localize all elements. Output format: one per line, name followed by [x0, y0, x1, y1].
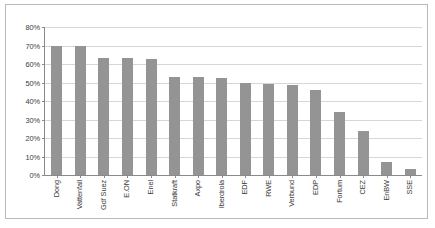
- bar-slot: [351, 27, 375, 175]
- x-tick-label: EDP: [310, 180, 319, 195]
- bar-slot: [186, 27, 210, 175]
- y-tick-label: 50%: [26, 78, 41, 87]
- bar: [146, 59, 157, 175]
- x-tick-label: Dong: [51, 180, 60, 197]
- bar-slot: [139, 27, 163, 175]
- x-tick-mark: [104, 175, 105, 178]
- bar: [122, 58, 133, 175]
- y-tick-mark: [42, 175, 45, 176]
- bar-slot: [45, 27, 69, 175]
- x-label-slot: Enel: [138, 179, 162, 223]
- x-tick-label: Iberdrola: [216, 180, 225, 208]
- x-tick-mark: [316, 175, 317, 178]
- bar: [51, 46, 62, 176]
- bar: [310, 90, 321, 175]
- x-tick-label: Enel: [146, 180, 155, 194]
- x-label-slot: E.ON: [115, 179, 139, 223]
- y-tick-label: 30%: [26, 115, 41, 124]
- bar-slot: [257, 27, 281, 175]
- x-label-slot: EDP: [303, 179, 327, 223]
- y-tick-label: 0%: [30, 171, 40, 180]
- x-tick-mark: [363, 175, 364, 178]
- bar-series: [45, 27, 422, 175]
- x-tick-mark: [175, 175, 176, 178]
- bar-slot: [163, 27, 187, 175]
- x-tick-label: Fortum: [334, 180, 343, 203]
- x-tick-label: CEZ: [358, 180, 367, 194]
- bar-slot: [304, 27, 328, 175]
- x-tick-mark: [292, 175, 293, 178]
- bar: [216, 78, 227, 175]
- x-tick-mark: [80, 175, 81, 178]
- bar-slot: [210, 27, 234, 175]
- bar-slot: [375, 27, 399, 175]
- x-label-slot: Gdf Suez: [91, 179, 115, 223]
- x-label-slot: Vattenfall: [68, 179, 92, 223]
- x-tick-mark: [151, 175, 152, 178]
- y-tick-label: 70%: [26, 41, 41, 50]
- x-tick-label: EnBW: [381, 180, 390, 201]
- x-tick-mark: [340, 175, 341, 178]
- bar: [263, 84, 274, 175]
- bar-slot: [69, 27, 93, 175]
- bar-slot: [116, 27, 140, 175]
- x-tick-label: EDF: [240, 180, 249, 194]
- x-tick-label: Gdf Suez: [98, 180, 107, 210]
- chart-frame: 80%70%60%50%40%30%20%10%0% DongVattenfal…: [5, 4, 428, 219]
- x-tick-mark: [198, 175, 199, 178]
- x-label-slot: SSE: [397, 179, 421, 223]
- x-tick-mark: [387, 175, 388, 178]
- bar: [98, 58, 109, 175]
- y-tick-label: 60%: [26, 60, 41, 69]
- x-tick-label: Verbund: [287, 180, 296, 207]
- x-tick-label: SSE: [405, 180, 414, 195]
- x-label-slot: RWE: [256, 179, 280, 223]
- bar-slot: [328, 27, 352, 175]
- x-axis-category-labels: DongVattenfallGdf SuezE.ONEnelStatkraftA…: [44, 179, 421, 223]
- plot-area: 80%70%60%50%40%30%20%10%0%: [44, 27, 422, 176]
- bar-slot: [92, 27, 116, 175]
- x-label-slot: Axpo: [185, 179, 209, 223]
- x-label-slot: Dong: [44, 179, 68, 223]
- x-label-slot: Statkraft: [162, 179, 186, 223]
- x-tick-mark: [222, 175, 223, 178]
- x-tick-label: RWE: [263, 180, 272, 197]
- bar-slot: [398, 27, 422, 175]
- x-tick-mark: [57, 175, 58, 178]
- bar: [358, 131, 369, 175]
- bar: [287, 85, 298, 175]
- y-tick-label: 80%: [26, 23, 41, 32]
- x-label-slot: EDF: [233, 179, 257, 223]
- x-label-slot: Verbund: [280, 179, 304, 223]
- bar-slot: [281, 27, 305, 175]
- bar-slot: [234, 27, 258, 175]
- x-label-slot: EnBW: [374, 179, 398, 223]
- y-tick-label: 40%: [26, 97, 41, 106]
- bar: [75, 46, 86, 176]
- bar: [334, 112, 345, 175]
- y-tick-label: 20%: [26, 134, 41, 143]
- x-tick-mark: [127, 175, 128, 178]
- x-tick-mark: [269, 175, 270, 178]
- x-label-slot: CEZ: [350, 179, 374, 223]
- x-label-slot: Iberdrola: [209, 179, 233, 223]
- x-tick-label: Vattenfall: [75, 180, 84, 209]
- x-tick-label: Axpo: [193, 180, 202, 196]
- bar: [381, 162, 392, 175]
- x-tick-mark: [245, 175, 246, 178]
- x-tick-label: Statkraft: [169, 180, 178, 207]
- bar: [169, 77, 180, 175]
- x-label-slot: Fortum: [327, 179, 351, 223]
- x-tick-mark: [410, 175, 411, 178]
- bar: [193, 77, 204, 175]
- bar: [240, 83, 251, 176]
- y-tick-label: 10%: [26, 152, 41, 161]
- x-tick-label: E.ON: [122, 180, 131, 198]
